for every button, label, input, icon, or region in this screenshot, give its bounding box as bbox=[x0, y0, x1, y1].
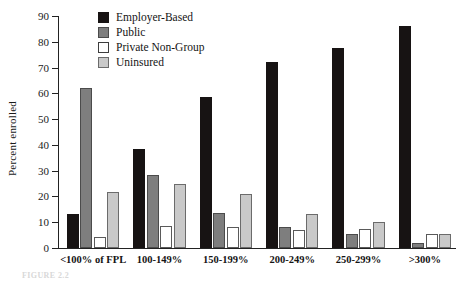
bar-group bbox=[399, 16, 452, 248]
bar bbox=[359, 229, 371, 248]
bar bbox=[133, 149, 145, 248]
chart-figure: Percent enrolled Employer-Based Public P… bbox=[0, 0, 464, 282]
bar-group bbox=[266, 16, 319, 248]
y-tick-label: 0 bbox=[44, 242, 50, 254]
figure-caption: FIGURE 2.2 bbox=[22, 271, 69, 278]
bar bbox=[266, 62, 278, 248]
y-tick-mark bbox=[52, 171, 58, 172]
y-tick-mark bbox=[52, 222, 58, 223]
bar bbox=[147, 175, 159, 248]
y-tick-label: 30 bbox=[38, 165, 49, 177]
x-tick-label: >300% bbox=[409, 254, 441, 265]
y-tick-mark bbox=[52, 145, 58, 146]
x-axis-line bbox=[58, 248, 456, 249]
bar bbox=[213, 213, 225, 248]
bar bbox=[200, 97, 212, 248]
bar bbox=[412, 243, 424, 248]
y-tick-label: 20 bbox=[38, 190, 49, 202]
y-tick-label: 70 bbox=[38, 62, 49, 74]
bar bbox=[439, 234, 451, 248]
bar bbox=[373, 222, 385, 248]
bar bbox=[174, 184, 186, 248]
y-tick-mark bbox=[52, 248, 58, 249]
bar bbox=[80, 88, 92, 248]
bar-group bbox=[200, 16, 253, 248]
bar bbox=[293, 230, 305, 248]
bar bbox=[160, 226, 172, 248]
y-tick-label: 40 bbox=[38, 139, 49, 151]
bar bbox=[94, 237, 106, 248]
y-tick-label: 10 bbox=[38, 216, 49, 228]
bar bbox=[67, 214, 79, 248]
y-tick-label: 60 bbox=[38, 87, 49, 99]
y-axis-line bbox=[58, 16, 59, 249]
x-tick-label: 200-249% bbox=[269, 254, 315, 265]
bar bbox=[107, 192, 119, 248]
bar-group bbox=[67, 16, 120, 248]
y-tick-mark bbox=[52, 196, 58, 197]
x-tick-label: 250-299% bbox=[336, 254, 382, 265]
bar bbox=[332, 48, 344, 248]
y-tick-mark bbox=[52, 16, 58, 17]
bar bbox=[346, 234, 358, 248]
y-tick-mark bbox=[52, 68, 58, 69]
plot-area: 0102030405060708090 <100% of FPL100-149%… bbox=[58, 16, 456, 248]
y-tick-mark bbox=[52, 119, 58, 120]
y-tick-mark bbox=[52, 93, 58, 94]
bar bbox=[227, 227, 239, 248]
bar bbox=[399, 26, 411, 248]
x-tick-label: 100-149% bbox=[137, 254, 183, 265]
bar-group bbox=[332, 16, 385, 248]
x-tick-label: 150-199% bbox=[203, 254, 249, 265]
bar-group bbox=[133, 16, 186, 248]
y-tick-label: 50 bbox=[38, 113, 49, 125]
y-axis-title: Percent enrolled bbox=[6, 84, 22, 194]
bar bbox=[240, 194, 252, 248]
bar bbox=[426, 234, 438, 248]
bar bbox=[306, 214, 318, 248]
bar bbox=[279, 227, 291, 248]
y-tick-label: 90 bbox=[38, 10, 49, 22]
y-tick-mark bbox=[52, 42, 58, 43]
x-tick-label: <100% of FPL bbox=[60, 254, 126, 265]
y-tick-label: 80 bbox=[38, 36, 49, 48]
